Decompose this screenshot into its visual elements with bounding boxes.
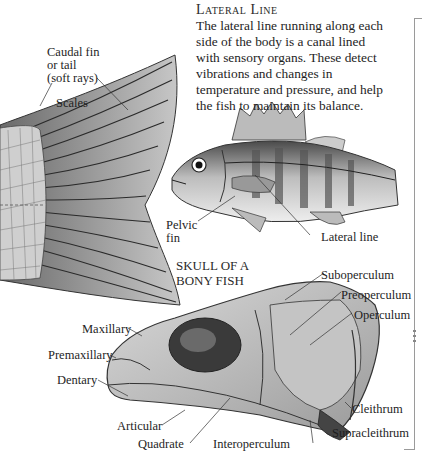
label-pelvic-fin: Pelvic fin xyxy=(166,219,197,245)
caudal-fin-illustration xyxy=(0,55,180,305)
label-premaxillary: Premaxillary xyxy=(48,348,113,362)
lateral-line-description: The lateral line running along each side… xyxy=(196,18,422,114)
label-interoperculum: Interoperculum xyxy=(213,437,290,451)
description-line: vibrations and changes in xyxy=(196,66,422,82)
label-preoperculum: Preoperculum xyxy=(341,288,411,302)
description-line: temperature and pressure, and help xyxy=(196,82,422,98)
label-line: (soft rays) xyxy=(47,72,99,85)
description-line: with sensory organs. These detect xyxy=(196,50,422,66)
label-caudal-fin: Caudal fin or tail (soft rays) xyxy=(47,46,99,85)
title-line: SKULL OF A xyxy=(176,258,249,273)
title-line: BONY FISH xyxy=(176,273,249,288)
label-cleithrum: Cleithrum xyxy=(352,402,403,416)
label-scales: Scales xyxy=(56,96,88,110)
label-lateral-line: Lateral line xyxy=(321,230,378,244)
label-articular: Articular xyxy=(117,419,162,433)
label-quadrate: Quadrate xyxy=(138,437,184,451)
description-line: The lateral line running along each xyxy=(196,18,422,34)
label-dentary: Dentary xyxy=(57,373,97,387)
label-suboperculum: Suboperculum xyxy=(321,268,394,282)
skull-title: SKULL OF A BONY FISH xyxy=(176,258,249,288)
label-line: fin xyxy=(166,232,197,245)
description-line: the fish to maintain its balance. xyxy=(196,98,422,114)
label-maxillary: Maxillary xyxy=(82,322,131,336)
description-line: side of the body is a canal lined xyxy=(196,34,422,50)
label-operculum: Operculum xyxy=(354,308,410,322)
skull-illustration xyxy=(107,282,379,440)
fish-anatomy-diagram: Lateral Line The lateral line running al… xyxy=(0,0,422,453)
lateral-line-heading: Lateral Line xyxy=(196,2,278,18)
perch-illustration xyxy=(172,102,398,232)
label-supracleithrum: Supracleithrum xyxy=(332,426,409,440)
